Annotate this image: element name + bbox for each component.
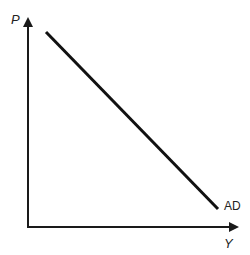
ad-curve-label: AD (224, 199, 241, 213)
x-axis-label: Y (224, 236, 234, 251)
ad-curve (46, 32, 218, 209)
ad-chart: P Y AD (0, 0, 250, 255)
y-axis-label: P (11, 12, 20, 27)
